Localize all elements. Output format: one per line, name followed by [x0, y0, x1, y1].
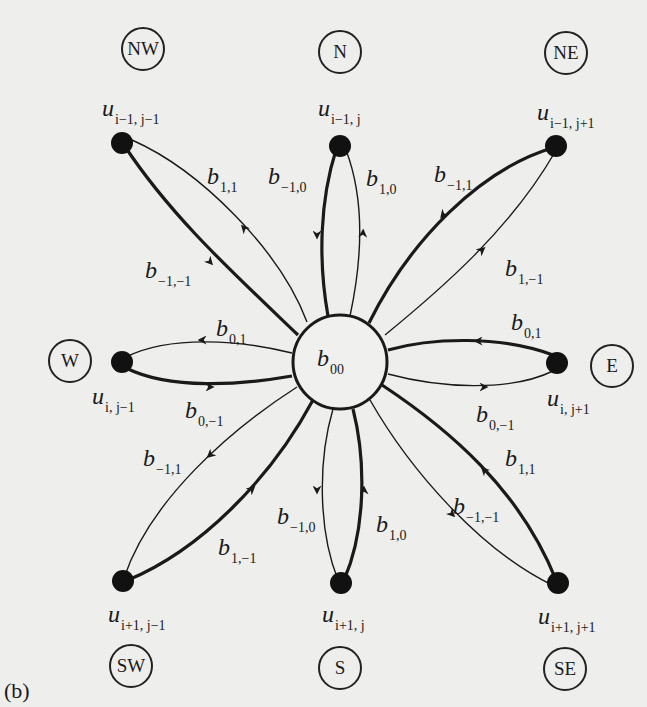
edge-e: [388, 340, 553, 387]
node-label-s: ui+1, j: [322, 602, 365, 626]
node-s: [330, 572, 352, 594]
edge-s: [317, 409, 364, 580]
stencil-diagram: b00 NW N NE W E SW S SE (b) ui−1, j−1 ui…: [0, 0, 647, 707]
edge-label-ne-in: b−1,1: [434, 162, 472, 186]
node-label-n: ui−1, j: [318, 96, 361, 120]
edge-label-w-out: b0,1: [216, 316, 247, 340]
node-n: [329, 135, 351, 157]
node-sw: [112, 570, 134, 592]
compass-se: SE: [543, 647, 587, 691]
edge-w: [126, 340, 292, 387]
edge-label-w-in: b0,−1: [185, 398, 223, 422]
center-label: b00: [317, 346, 344, 370]
node-e: [546, 352, 568, 374]
edge-label-n-out: b1,0: [366, 166, 397, 190]
edge-n: [317, 150, 363, 316]
edge-label-e-in: b0,1: [511, 310, 542, 334]
edge-label-s-in: b1,0: [376, 512, 407, 536]
compass-e: E: [590, 344, 634, 388]
compass-sw: SW: [109, 644, 153, 688]
node-label-e: ui, j+1: [547, 386, 590, 410]
edge-label-nw-out: b1,1: [207, 164, 238, 188]
edge-label-nw-in: b−1,−1: [145, 258, 191, 282]
edge-label-sw-in: b1,−1: [218, 535, 256, 559]
node-w: [111, 351, 133, 373]
edge-label-sw-out: b−1,1: [143, 446, 181, 470]
compass-w: W: [48, 339, 92, 383]
edge-label-se-in: b1,1: [505, 446, 536, 470]
node-label-nw: ui−1, j−1: [102, 96, 160, 120]
node-label-ne: ui−1, j+1: [537, 100, 595, 124]
edge-label-s-out: b−1,0: [277, 504, 315, 528]
node-se: [547, 572, 569, 594]
compass-nw: NW: [121, 27, 165, 71]
edge-label-n-in: b−1,0: [268, 164, 306, 188]
node-label-sw: ui+1, j−1: [108, 602, 166, 626]
edge-se: [370, 385, 556, 585]
compass-ne: NE: [544, 31, 588, 75]
edge-label-e-out: b0,−1: [476, 402, 514, 426]
edge-label-ne-out: b1,−1: [505, 256, 543, 280]
compass-n: N: [318, 30, 362, 74]
panel-label: (b): [4, 678, 30, 704]
edge-label-se-out: b−1,−1: [453, 494, 499, 518]
node-label-se: ui+1, j+1: [538, 604, 596, 628]
node-ne: [545, 135, 567, 157]
node-label-w: ui, j−1: [92, 384, 135, 408]
compass-s: S: [318, 646, 362, 690]
node-nw: [111, 132, 133, 154]
